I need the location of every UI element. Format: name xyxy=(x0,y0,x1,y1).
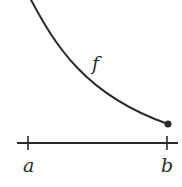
label-a: a xyxy=(23,154,34,176)
endpoint-dot xyxy=(165,121,172,128)
label-b: b xyxy=(161,154,173,176)
function-diagram: f a b xyxy=(0,0,182,187)
curve-label-f: f xyxy=(90,52,102,74)
